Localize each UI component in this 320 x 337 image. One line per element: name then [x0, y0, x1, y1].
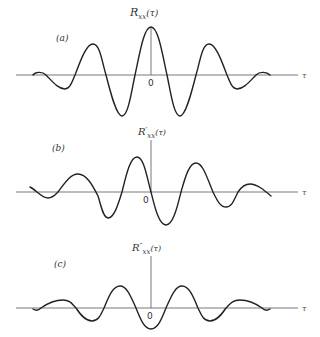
panel-b-label: (b) — [52, 143, 65, 153]
panel-a-curve — [33, 27, 270, 116]
panel-a-origin-label: 0 — [148, 78, 154, 88]
panel-b-x-label: τ — [302, 188, 307, 197]
panel-a: (a) Rxx(τ) 0 τ — [16, 6, 307, 116]
panel-b-ylabel: R′xx(τ) — [137, 125, 166, 140]
panel-c-ylabel: R″xx(τ) — [131, 241, 161, 256]
panel-a-ylabel: Rxx(τ) — [129, 6, 159, 21]
panel-b-origin-label: 0 — [143, 195, 149, 205]
panel-c-curve — [33, 286, 270, 329]
panel-c-x-label: τ — [302, 304, 307, 313]
panel-b: (b) R′xx(τ) 0 τ — [16, 125, 307, 225]
panel-a-x-label: τ — [302, 71, 307, 80]
panel-c-origin-label: 0 — [147, 311, 153, 321]
panel-a-label: (a) — [56, 33, 69, 43]
panel-c: (c) R″xx(τ) 0 τ — [16, 241, 307, 329]
panel-c-label: (c) — [54, 259, 67, 269]
autocorrelation-diagram: (a) Rxx(τ) 0 τ (b) R′xx(τ) 0 τ (c) R″xx(… — [0, 0, 320, 337]
panel-b-curve — [30, 157, 271, 225]
